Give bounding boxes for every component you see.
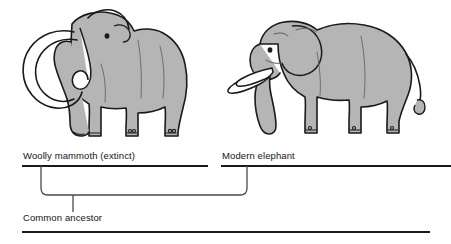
- woolly-mammoth-illustration: [2, 2, 207, 148]
- elephant-eye: [268, 47, 273, 53]
- common-ancestor-rule: [22, 231, 430, 233]
- common-ancestor-label: Common ancestor: [23, 212, 102, 224]
- cladogram-diagram: Woolly mammoth (extinct) Modern elephant…: [0, 0, 451, 244]
- mammoth-eye: [105, 33, 110, 39]
- common-ancestor-bracket: [0, 160, 451, 220]
- modern-elephant-illustration: [214, 2, 439, 148]
